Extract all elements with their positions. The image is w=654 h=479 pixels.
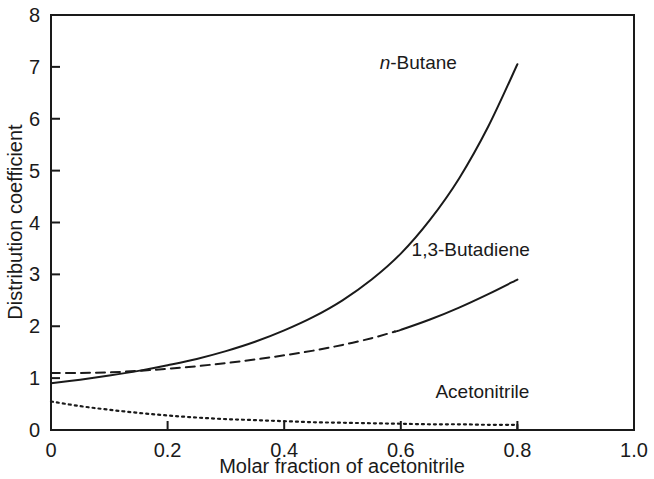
y-tick-label: 3: [29, 263, 40, 285]
y-axis-tick-labels: 012345678: [29, 4, 40, 441]
chart-background: [0, 0, 654, 479]
y-tick-label: 4: [29, 212, 40, 234]
y-tick-label: 5: [29, 160, 40, 182]
y-tick-label: 7: [29, 56, 40, 78]
x-tick-label: 1.0: [620, 439, 648, 461]
chart-figure: 012345678 00.20.40.60.81.0 n-Butane1,3-B…: [0, 0, 654, 479]
y-axis-title: Distribution coefficient: [4, 124, 26, 320]
y-tick-label: 6: [29, 108, 40, 130]
x-tick-label: 0: [45, 439, 56, 461]
series-annotation-2: Acetonitrile: [435, 381, 529, 402]
y-tick-label: 8: [29, 4, 40, 26]
series-annotation-0: n-Butane: [380, 52, 457, 73]
y-tick-label: 0: [29, 419, 40, 441]
distribution-coefficient-chart: 012345678 00.20.40.60.81.0 n-Butane1,3-B…: [0, 0, 654, 479]
x-tick-label: 0.8: [503, 439, 531, 461]
y-tick-label: 2: [29, 315, 40, 337]
y-tick-label: 1: [29, 367, 40, 389]
x-axis-title: Molar fraction of acetonitrile: [219, 455, 465, 477]
x-tick-label: 0.2: [154, 439, 182, 461]
series-annotation-1: 1,3-Butadiene: [412, 239, 530, 260]
